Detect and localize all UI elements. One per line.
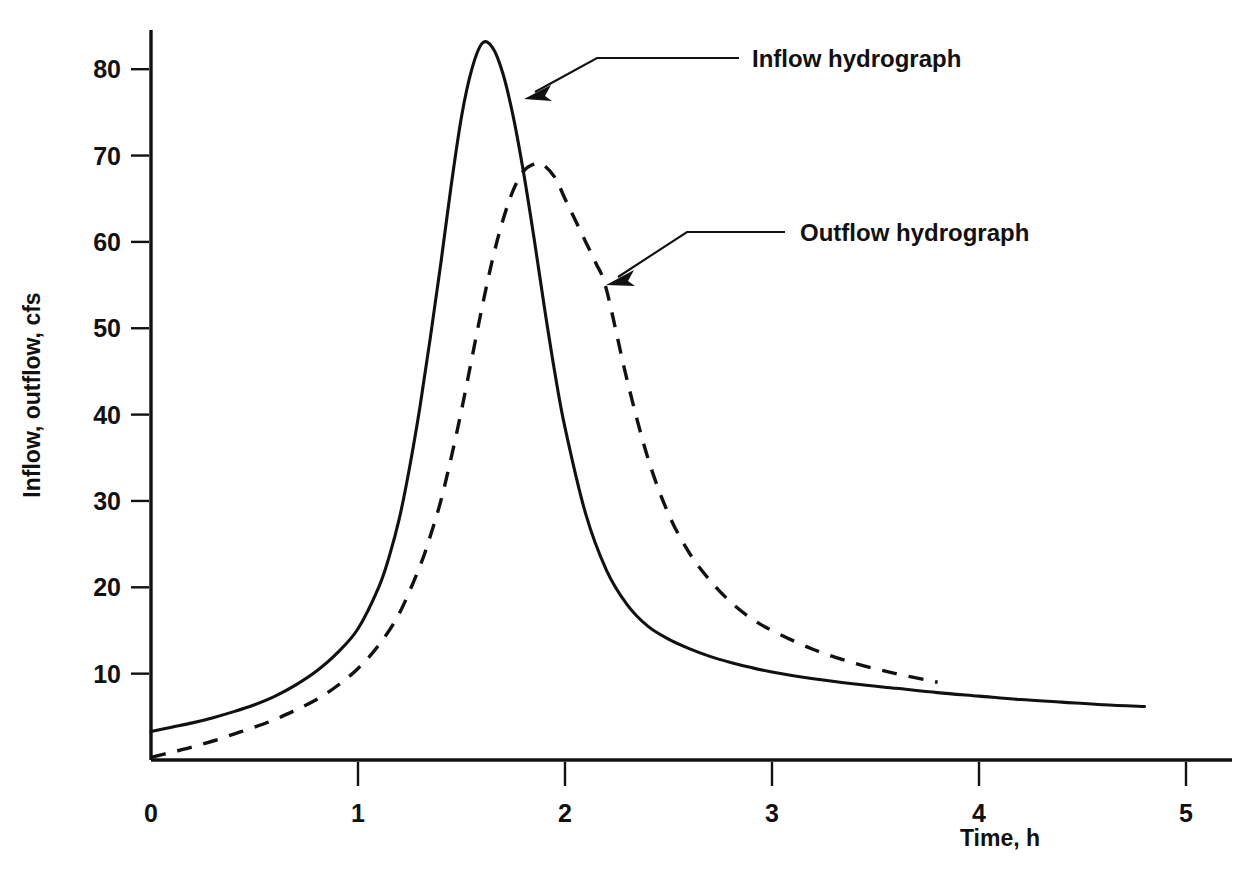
data-curves <box>151 42 1145 758</box>
y-tick-label: 60 <box>93 228 121 256</box>
outflow-annotation-label: Outflow hydrograph <box>800 219 1029 246</box>
inflow-annotation: Inflow hydrograph <box>524 45 961 101</box>
y-axis-ticks: 1020304050607080 <box>93 55 149 687</box>
inflow-leader-line <box>535 58 739 92</box>
x-tick-label: 0 <box>144 799 158 827</box>
outflow-arrowhead <box>606 270 635 286</box>
hydrograph-plot: 1020304050607080 012345 Inflow, outflow,… <box>0 0 1259 876</box>
x-tick-label: 5 <box>1179 799 1193 827</box>
y-tick-label: 70 <box>93 142 121 170</box>
y-tick-label: 30 <box>93 487 121 515</box>
y-axis-title: Inflow, outflow, cfs <box>19 292 45 497</box>
x-tick-label: 1 <box>351 799 365 827</box>
inflow-annotation-label: Inflow hydrograph <box>752 45 961 72</box>
x-tick-label: 3 <box>765 799 779 827</box>
inflow-hydrograph-curve <box>151 42 1145 732</box>
x-tick-label: 2 <box>558 799 572 827</box>
y-tick-label: 20 <box>93 573 121 601</box>
y-tick-label: 40 <box>93 401 121 429</box>
outflow-leader-line <box>618 232 785 277</box>
outflow-annotation: Outflow hydrograph <box>606 219 1029 286</box>
outflow-hydrograph-curve <box>151 163 938 757</box>
x-axis-ticks: 012345 <box>144 762 1193 827</box>
x-axis-title: Time, h <box>960 825 1040 851</box>
y-tick-label: 80 <box>93 55 121 83</box>
y-tick-label: 10 <box>93 660 121 688</box>
hydrograph-figure: 1020304050607080 012345 Inflow, outflow,… <box>0 0 1259 876</box>
x-tick-label: 4 <box>972 799 986 827</box>
y-tick-label: 50 <box>93 314 121 342</box>
inflow-arrowhead <box>524 85 552 101</box>
